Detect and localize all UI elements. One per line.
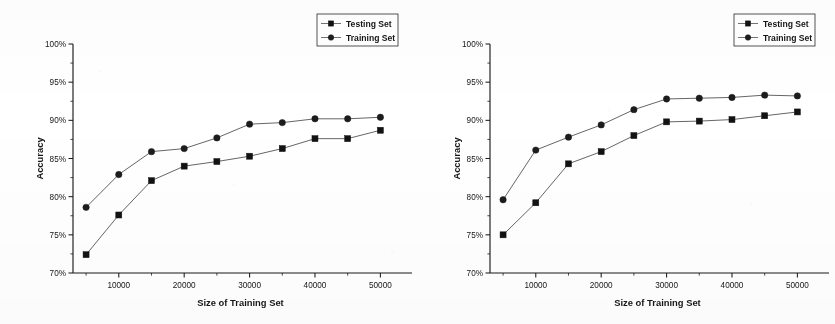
data-point-marker-square (762, 113, 768, 119)
data-point-marker-square (181, 163, 187, 169)
y-tick-label: 70% (50, 269, 66, 278)
x-tick-label: 40000 (721, 281, 744, 290)
x-tick-label: 40000 (304, 281, 327, 290)
data-point-marker-circle (533, 147, 539, 153)
y-tick-label: 70% (467, 269, 483, 278)
plot-area: 70%75%80%85%90%95%100%100002000030000400… (34, 40, 412, 308)
data-point-marker-square (729, 117, 735, 123)
x-tick-label: 30000 (238, 281, 261, 290)
data-point-marker-circle (794, 93, 800, 99)
y-tick-label: 100% (45, 40, 66, 49)
chart-panel-right: 70%75%80%85%90%95%100%100002000030000400… (417, 0, 834, 324)
data-point-marker-square (598, 149, 604, 155)
data-point-marker-circle (729, 94, 735, 100)
data-point-marker-square (247, 153, 253, 159)
legend-marker-square (745, 21, 750, 26)
legend-marker-square (328, 21, 333, 26)
data-point-marker-square (83, 252, 89, 258)
data-point-marker-circle (312, 116, 318, 122)
y-tick-label: 75% (467, 231, 483, 240)
legend-marker-circle (328, 35, 334, 41)
data-point-marker-circle (214, 135, 220, 141)
y-tick-label: 100% (462, 40, 483, 49)
data-point-marker-square (116, 212, 122, 218)
data-point-marker-square (312, 136, 318, 142)
data-point-marker-circle (181, 145, 187, 151)
y-tick-label: 80% (467, 193, 483, 202)
line-chart-right: 70%75%80%85%90%95%100%100002000030000400… (417, 0, 834, 324)
data-point-marker-square (279, 146, 285, 152)
data-point-marker-circle (279, 119, 285, 125)
legend-label: Training Set (763, 33, 812, 43)
legend[interactable]: Testing SetTraining Set (734, 14, 815, 46)
data-point-marker-circle (500, 197, 506, 203)
legend-label: Testing Set (763, 19, 809, 29)
x-tick-label: 20000 (590, 281, 613, 290)
line-chart-left: 70%75%80%85%90%95%100%100002000030000400… (0, 0, 417, 324)
x-tick-label: 10000 (107, 281, 130, 290)
data-point-marker-circle (631, 106, 637, 112)
data-point-marker-circle (83, 204, 89, 210)
data-point-marker-square (345, 136, 351, 142)
y-tick-label: 95% (467, 78, 483, 87)
x-tick-label: 10000 (524, 281, 547, 290)
data-point-marker-square (696, 118, 702, 124)
y-tick-label: 75% (50, 231, 66, 240)
x-axis-title: Size of Training Set (197, 297, 283, 308)
series-line-2 (503, 95, 797, 200)
y-tick-label: 85% (467, 155, 483, 164)
legend-label: Testing Set (346, 19, 392, 29)
data-point-marker-circle (246, 121, 252, 127)
data-point-marker-circle (116, 171, 122, 177)
legend-marker-circle (745, 35, 751, 41)
legend[interactable]: Testing SetTraining Set (317, 14, 398, 46)
y-axis-title: Accuracy (451, 137, 462, 180)
data-point-marker-circle (377, 114, 383, 120)
data-point-marker-square (377, 127, 383, 133)
data-point-marker-square (533, 200, 539, 206)
x-tick-label: 50000 (786, 281, 809, 290)
data-point-marker-circle (696, 95, 702, 101)
data-point-marker-circle (598, 122, 604, 128)
chart-panel-left: 70%75%80%85%90%95%100%100002000030000400… (0, 0, 417, 324)
x-tick-label: 50000 (369, 281, 392, 290)
y-tick-label: 90% (50, 116, 66, 125)
series-line-1 (86, 130, 380, 254)
y-tick-label: 95% (50, 78, 66, 87)
y-axis-title: Accuracy (34, 137, 45, 180)
x-tick-label: 20000 (173, 281, 196, 290)
y-tick-label: 90% (467, 116, 483, 125)
data-point-marker-square (631, 133, 637, 139)
series-line-2 (86, 117, 380, 207)
figure-row: 70%75%80%85%90%95%100%100002000030000400… (0, 0, 835, 324)
x-axis-title: Size of Training Set (614, 297, 700, 308)
data-point-marker-square (794, 109, 800, 115)
data-point-marker-square (500, 232, 506, 238)
legend-label: Training Set (346, 33, 395, 43)
data-point-marker-square (664, 119, 670, 125)
data-point-marker-circle (148, 148, 154, 154)
y-tick-label: 80% (50, 193, 66, 202)
plot-area: 70%75%80%85%90%95%100%100002000030000400… (451, 40, 829, 308)
x-tick-label: 30000 (655, 281, 678, 290)
y-tick-label: 85% (50, 155, 66, 164)
data-point-marker-circle (663, 96, 669, 102)
data-point-marker-circle (344, 116, 350, 122)
data-point-marker-square (565, 161, 571, 167)
series-line-1 (503, 112, 797, 235)
data-point-marker-square (214, 159, 220, 165)
data-point-marker-circle (565, 134, 571, 140)
data-point-marker-square (148, 178, 154, 184)
data-point-marker-circle (761, 92, 767, 98)
